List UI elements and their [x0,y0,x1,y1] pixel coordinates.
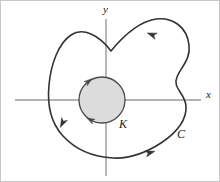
figure-canvas: x y K C [1,1,220,182]
figure-container: x y K C [0,0,220,182]
y-axis-label: y [102,3,108,15]
outer-curve-arrowhead-1 [146,30,157,39]
inner-circle-label: K [118,117,128,131]
x-axis-label: x [205,88,211,100]
outer-curve-arrowhead-2 [57,118,67,129]
outer-curve-label: C [177,127,186,141]
